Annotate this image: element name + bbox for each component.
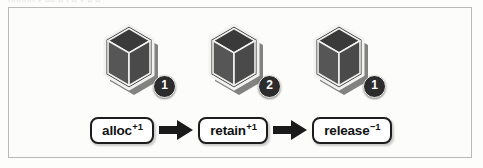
object-group-1: 1 bbox=[85, 16, 177, 108]
flow-arrow-right bbox=[159, 119, 193, 141]
retain-count-delta: +1 bbox=[246, 115, 256, 138]
message-button-alloc[interactable]: alloc+1 bbox=[90, 117, 154, 144]
message-label: alloc bbox=[102, 119, 132, 142]
message-label: retain bbox=[210, 119, 246, 142]
message-label: release bbox=[324, 119, 369, 142]
retain-count-badge: 2 bbox=[258, 75, 281, 98]
object-row: 1 2 bbox=[9, 16, 473, 108]
message-button-retain[interactable]: retain+1 bbox=[198, 117, 268, 144]
object-group-2: 2 bbox=[190, 16, 282, 108]
flow-arrow-right bbox=[273, 119, 307, 141]
message-button-release[interactable]: release−1 bbox=[312, 117, 392, 144]
retain-count-badge: 1 bbox=[363, 75, 386, 98]
retain-count-delta: +1 bbox=[132, 115, 142, 138]
retain-count-badge: 1 bbox=[153, 75, 176, 98]
object-group-3: 1 bbox=[295, 16, 387, 108]
cut-off-caption-sliver: nnnnn y pp g j g y p g bbox=[8, 0, 338, 2]
scanned-page-background: nnnnn y pp g j g y p g 1 bbox=[0, 0, 483, 168]
retain-count-delta: −1 bbox=[370, 115, 380, 138]
message-flow-row: alloc+1 retain+1 release−1 bbox=[9, 109, 473, 151]
figure-frame: 1 2 bbox=[8, 7, 472, 158]
